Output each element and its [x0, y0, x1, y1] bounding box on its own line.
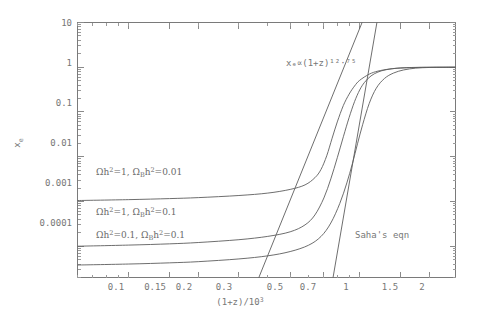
series-label-value: =0.1 — [163, 230, 185, 240]
x-axis-title: (1+z)/103 — [216, 296, 263, 308]
series-label-0: Ωh2=1, ΩBh2=0.01 — [96, 166, 182, 180]
recombination-history-figure: 10 1 0.1 0.01 0.001 0.0001 0.1 0.15 0.2 … — [0, 0, 481, 314]
x-tick-label: 0.2 — [176, 282, 192, 292]
x-axis-title-exponent: 3 — [260, 296, 264, 304]
series-label-mid: =0.1, — [113, 230, 141, 240]
svg-text:xe: xe — [12, 138, 25, 147]
svg-text:Ωh2=0.1, ΩBh2=0.1: Ωh2=0.1, ΩBh2=0.1 — [96, 229, 185, 243]
x-axis-title-text: (1+z)/10 — [216, 297, 259, 307]
power-law-annotation-text: xₑ∝(1+z)¹²·⁷⁵ — [286, 58, 356, 68]
power-law-annotation: xₑ∝(1+z)¹²·⁷⁵ — [286, 58, 356, 68]
y-tick-label: 10 — [61, 18, 72, 28]
series-label-omega-b: Ω — [132, 167, 139, 177]
svg-text:Ωh2=1, ΩBh2=0.01: Ωh2=1, ΩBh2=0.01 — [96, 166, 182, 180]
series-label-value: =0.1 — [155, 207, 177, 217]
plot-canvas: 10 1 0.1 0.01 0.001 0.0001 0.1 0.15 0.2 … — [0, 0, 481, 314]
x-tick-label: 2 — [419, 282, 424, 292]
series-label-2: Ωh2=0.1, ΩBh2=0.1 — [96, 229, 185, 243]
series-label-omega: Ωh — [96, 207, 109, 217]
x-tick-label: 0.3 — [216, 282, 232, 292]
saha-annotation-text: Saha's eqn — [355, 230, 409, 240]
data-curve-0 — [78, 67, 456, 200]
data-curve-1 — [78, 67, 456, 246]
series-label-omega: Ωh — [96, 167, 109, 177]
y-tick-label: 1 — [67, 58, 72, 68]
svg-text:(1+z)/103: (1+z)/103 — [216, 296, 263, 308]
x-tick-label: 0.7 — [300, 282, 316, 292]
series-label-1: Ωh2=1, ΩBh2=0.1 — [96, 206, 176, 220]
series-label-omega: Ωh — [96, 230, 109, 240]
x-tick-label: 1 — [343, 282, 348, 292]
saha-annotation: Saha's eqn — [355, 230, 409, 240]
x-tick-label: 0.5 — [267, 282, 283, 292]
y-axis-title: xe — [12, 138, 25, 147]
x-tick-label: 1.5 — [382, 282, 398, 292]
y-tick-label: 0.0001 — [39, 218, 72, 228]
x-tick-label: 0.15 — [144, 282, 166, 292]
x-tick-label: 0.1 — [108, 282, 124, 292]
svg-text:xₑ∝(1+z)¹²·⁷⁵: xₑ∝(1+z)¹²·⁷⁵ — [286, 58, 356, 68]
y-tick-label: 0.1 — [56, 98, 72, 108]
series-label-mid: =1, — [113, 167, 132, 177]
series-label-value: =0.01 — [155, 167, 183, 177]
series-label-omega-b: Ω — [132, 207, 139, 217]
y-tick-labels: 10 1 0.1 0.01 0.001 0.0001 — [39, 18, 72, 228]
y-tick-label: 0.01 — [50, 138, 72, 148]
y-axis-title-subscript: e — [17, 138, 25, 142]
series-label-omega-b: Ω — [141, 230, 148, 240]
x-tick-labels: 0.1 0.15 0.2 0.3 0.5 0.7 1 1.5 2 — [108, 282, 425, 292]
y-tick-label: 0.001 — [45, 178, 72, 188]
series-label-mid: =1, — [113, 207, 132, 217]
svg-text:Ωh2=1, ΩBh2=0.1: Ωh2=1, ΩBh2=0.1 — [96, 206, 176, 220]
